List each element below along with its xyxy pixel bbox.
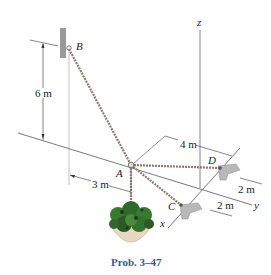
problem-caption: Prob. 3–47 — [111, 256, 162, 268]
dim-2m-c-label: 2 m — [217, 199, 234, 211]
y-axis-label: y — [253, 199, 259, 211]
bracket-d — [218, 164, 240, 180]
cable-ab — [69, 49, 131, 165]
point-b-label: B — [76, 40, 83, 52]
cable-ac — [131, 165, 181, 205]
dim-6m-arrow-top — [42, 43, 45, 48]
x-axis — [168, 148, 240, 228]
dim-3m-arrow — [70, 175, 75, 178]
y-axis — [18, 133, 252, 205]
dim-3m-label: 3 m — [92, 178, 109, 190]
dim-4m-ext — [133, 136, 165, 164]
dim-4m-line — [165, 136, 232, 156]
dim-2m-d-label: 2 m — [238, 183, 255, 195]
dim-6m-label: 6 m — [35, 87, 52, 99]
z-axis-label: z — [196, 16, 202, 28]
point-d-label: D — [207, 154, 216, 166]
statics-diagram: z y x B 6 m 3 m 4 m 2 m 2 m A D — [0, 0, 271, 275]
x-axis-label: x — [159, 217, 165, 229]
wall-plate — [60, 28, 66, 58]
dim-6m-arrow-bottom — [42, 134, 45, 139]
bracket-c — [179, 203, 202, 219]
cable-ad — [131, 165, 220, 168]
point-a-ring — [128, 162, 134, 168]
dim-4m-label: 4 m — [180, 138, 197, 150]
point-a-label: A — [115, 167, 123, 179]
hanging-plant — [109, 201, 154, 242]
dim-6m-ext — [30, 40, 58, 46]
point-c-label: C — [168, 200, 176, 212]
